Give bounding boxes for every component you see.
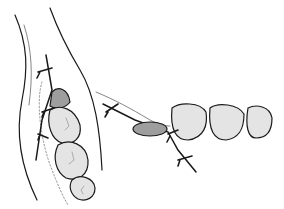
graft-occlusal: [50, 89, 70, 108]
buccal-tooth-2: [210, 105, 244, 140]
illustration-svg: [0, 0, 284, 209]
buccal-tooth-1: [172, 104, 207, 140]
buccal-tooth-3: [247, 106, 272, 138]
tissue-line: [96, 92, 170, 126]
occlusal-view: [15, 8, 102, 205]
buccal-view: [96, 92, 272, 172]
dental-illustration: [0, 0, 284, 209]
graft-buccal: [133, 122, 167, 136]
tooth-2: [55, 142, 88, 179]
outer-tissue-line: [15, 15, 37, 200]
tooth-1: [49, 107, 81, 143]
inner-tissue-line: [24, 25, 31, 105]
